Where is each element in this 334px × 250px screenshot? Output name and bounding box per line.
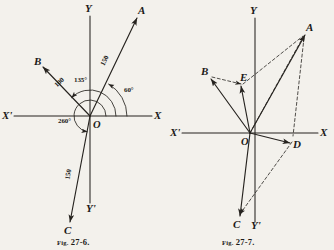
fig2-vector-od: [250, 133, 290, 143]
fig1-label-x: X: [154, 110, 161, 121]
fig1-caption-number: 27-6.: [71, 237, 90, 247]
fig2-label-x-neg: X': [170, 127, 180, 138]
fig2-label-e: E: [240, 72, 247, 83]
fig1-label-origin: O: [93, 120, 101, 131]
fig2-caption-number: 27-7.: [236, 237, 255, 247]
fig1-caption: Fig. 27-6.: [57, 238, 90, 247]
fig1-label-c: C: [64, 225, 71, 236]
fig1-angle-260: 260°: [58, 118, 71, 125]
fig1-angle-60: 60°: [124, 87, 134, 94]
fig2-label-b: B: [201, 66, 208, 77]
fig2-label-c: C: [233, 219, 240, 230]
fig2-dashed-ea: [243, 36, 303, 84]
fig1-label-b: B: [34, 56, 41, 67]
fig2-label-a: A: [306, 22, 313, 33]
fig2-dashed-be: [212, 77, 241, 84]
fig1-label-y-neg: Y': [86, 203, 96, 214]
fig2-label-y-neg: Y': [251, 220, 261, 231]
fig-27-7-graphic: [182, 18, 318, 222]
fig2-label-x: X: [320, 127, 327, 138]
fig1-label-y: Y: [85, 3, 92, 14]
fig2-vector-ob: [211, 79, 250, 133]
figure-page: Y Y' X X' O A B C 150 100 150 60° 135° 2…: [0, 0, 334, 250]
fig2-caption-prefix: Fig.: [222, 239, 233, 246]
fig1-caption-prefix: Fig.: [57, 239, 68, 246]
figures-canvas: [0, 0, 334, 250]
fig2-label-d: D: [293, 139, 301, 150]
fig1-label-a: A: [138, 5, 145, 16]
fig2-label-origin: O: [241, 137, 249, 148]
fig1-vector-b: [43, 67, 90, 116]
fig-27-6-graphic: [14, 16, 152, 222]
fig2-label-y: Y: [250, 5, 257, 16]
fig1-label-x-neg: X': [2, 110, 12, 121]
fig1-angle-135: 135°: [74, 77, 87, 84]
fig2-caption: Fig. 27-7.: [222, 238, 255, 247]
